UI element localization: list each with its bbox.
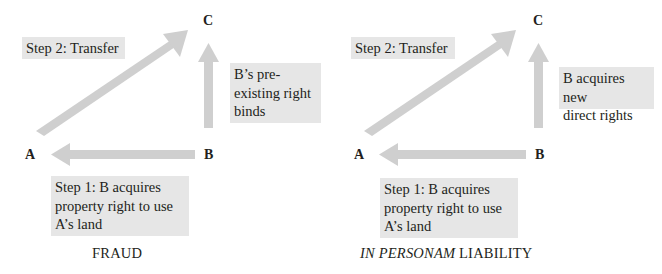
step2-label: Step 2: Transfer — [22, 37, 125, 59]
arrow-b-to-a-icon — [51, 143, 195, 166]
preexisting-right-box: B’s pre- existing right binds — [230, 63, 321, 123]
arrow-b-to-c-icon — [198, 43, 219, 128]
node-b: B — [204, 147, 213, 163]
node-a: A — [25, 147, 35, 163]
step1-box: Step 1: B acquires property right to use… — [51, 176, 189, 236]
arrow-b-to-a-icon — [379, 143, 526, 166]
fraud-diagram: C A B Step 2: Transfer B’s pre- existing… — [0, 0, 331, 274]
new-direct-rights-box: B acquires new direct rights — [559, 67, 654, 109]
caption-italic: IN PERSONAM — [360, 245, 455, 261]
panel-caption: IN PERSONAM LIABILITY — [360, 245, 533, 262]
step1-box: Step 1: B acquires property right to use… — [380, 178, 518, 238]
node-a: A — [354, 147, 364, 163]
node-b: B — [535, 147, 544, 163]
in-personam-diagram: C A B Step 2: Transfer B acquires new di… — [331, 0, 662, 274]
node-c: C — [533, 13, 543, 29]
panel-caption: FRAUD — [92, 245, 142, 262]
node-c: C — [203, 13, 213, 29]
caption-rest: LIABILITY — [455, 245, 532, 261]
step2-label: Step 2: Transfer — [351, 37, 455, 59]
arrow-b-to-c-icon — [528, 43, 549, 128]
